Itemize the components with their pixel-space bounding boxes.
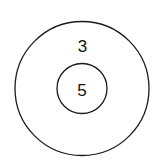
outer-circle-label: 3 [78, 37, 87, 56]
inner-circle-label: 5 [77, 81, 86, 100]
nested-circles-diagram: 3 5 [0, 0, 159, 166]
